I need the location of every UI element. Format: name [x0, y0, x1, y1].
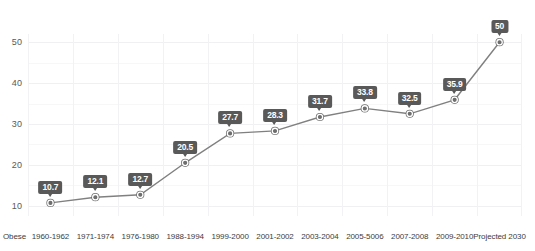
data-point-label: 12.7: [128, 173, 152, 186]
x-axis-tick-label: 2001-2002: [256, 232, 293, 241]
x-axis-tick-label: 1976-1980: [122, 232, 159, 241]
x-axis: Obese 1960-19621971-19741976-19801988-19…: [0, 232, 535, 248]
obesity-trend-line-chart: 1020304050 10.712.112.720.527.728.331.73…: [0, 0, 535, 251]
data-point-label: 28.3: [263, 109, 287, 122]
data-point-label: 20.5: [173, 141, 197, 154]
x-axis-tick-label: 1999-2000: [211, 232, 248, 241]
x-axis-tick-label: 2009-2010: [436, 232, 473, 241]
data-point-label: 27.7: [218, 111, 242, 124]
x-axis-tick-label: 1971-1974: [77, 232, 114, 241]
x-axis-tick-label: 2007-2008: [391, 232, 428, 241]
x-axis-series-name: Obese: [3, 232, 26, 241]
data-point-label: 32.5: [398, 92, 422, 105]
data-point-label: 35.9: [443, 78, 467, 91]
x-axis-tick-label: Projected 2030: [473, 232, 525, 241]
data-point-label: 50: [491, 20, 508, 33]
x-axis-tick-label: 2005-5006: [346, 232, 383, 241]
data-point-label: 10.7: [39, 181, 63, 194]
x-axis-tick-label: 2003-2004: [301, 232, 338, 241]
x-axis-tick-label: 1988-1994: [166, 232, 203, 241]
data-point-label: 31.7: [308, 95, 332, 108]
x-axis-tick-label: 1960-1962: [32, 232, 69, 241]
data-point-label: 12.1: [83, 175, 107, 188]
data-label-layer: 10.712.112.720.527.728.331.733.832.535.9…: [0, 0, 535, 251]
data-point-label: 33.8: [353, 86, 377, 99]
